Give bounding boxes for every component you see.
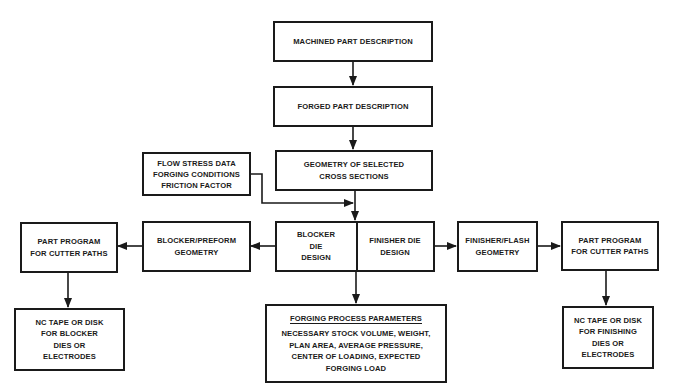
forged-part-description-box: FORGED PART DESCRIPTION — [273, 86, 433, 127]
node-label: FORGED PART DESCRIPTION — [297, 101, 408, 113]
node-label: GEOMETRY — [175, 247, 219, 259]
forging-design-flowchart: MACHINED PART DESCRIPTION FORGED PART DE… — [0, 0, 676, 392]
node-label: MACHINED PART DESCRIPTION — [293, 36, 413, 48]
node-label: DIE — [310, 241, 323, 253]
node-label: FORGING CONDITIONS — [153, 169, 240, 180]
node-label: GEOMETRY OF SELECTED — [304, 159, 404, 171]
node-label: DESIGN — [380, 247, 410, 259]
node-label: FOR BLOCKER — [41, 328, 98, 340]
node-label: FINISHER/FLASH — [465, 235, 529, 247]
finisher-die-design-section: FINISHER DIE DESIGN — [357, 223, 433, 270]
node-label: NC TAPE OR DISK — [574, 315, 642, 327]
node-label: GEOMETRY — [476, 247, 520, 259]
blocker-die-design-section: BLOCKER DIE DESIGN — [277, 223, 355, 270]
machined-part-description-box: MACHINED PART DESCRIPTION — [273, 21, 433, 62]
node-label: PART PROGRAM — [37, 236, 100, 248]
node-label: FORGING LOAD — [326, 363, 386, 375]
node-label: CENTER OF LOADING, EXPECTED — [292, 351, 421, 363]
node-label: DIES OR — [592, 338, 624, 350]
node-label: DESIGN — [301, 252, 331, 264]
node-label: FLOW STRESS DATA — [157, 158, 236, 169]
node-label: NECESSARY STOCK VOLUME, WEIGHT, — [282, 328, 431, 340]
nc-tape-blocker-box: NC TAPE OR DISK FOR BLOCKER DIES OR ELEC… — [14, 308, 125, 371]
blocker-preform-geometry-box: BLOCKER/PREFORM GEOMETRY — [142, 221, 251, 272]
node-label: BLOCKER/PREFORM — [157, 235, 236, 247]
finisher-flash-geometry-box: FINISHER/FLASH GEOMETRY — [457, 221, 538, 272]
part-program-left-box: PART PROGRAM FOR CUTTER PATHS — [20, 222, 118, 273]
node-label: PLAN AREA, AVERAGE PRESSURE, — [289, 340, 423, 352]
node-label: FRICTION FACTOR — [161, 180, 232, 191]
die-design-box: BLOCKER DIE DESIGN FINISHER DIE DESIGN — [275, 221, 435, 272]
node-label: ELECTRODES — [582, 349, 635, 361]
node-label: FOR CUTTER PATHS — [30, 248, 107, 260]
node-label: CROSS SECTIONS — [319, 171, 388, 183]
node-label: PART PROGRAM — [578, 235, 641, 247]
nc-tape-finishing-box: NC TAPE OR DISK FOR FINISHING DIES OR EL… — [562, 306, 654, 369]
forging-params-title: FORGING PROCESS PARAMETERS — [290, 313, 422, 325]
node-label: FOR CUTTER PATHS — [571, 246, 648, 258]
node-label: NC TAPE OR DISK — [35, 317, 103, 329]
part-program-right-box: PART PROGRAM FOR CUTTER PATHS — [561, 221, 659, 271]
flow-stress-data-box: FLOW STRESS DATA FORGING CONDITIONS FRIC… — [142, 152, 251, 196]
node-label: FOR FINISHING — [579, 326, 637, 338]
geometry-cross-sections-box: GEOMETRY OF SELECTED CROSS SECTIONS — [275, 150, 433, 191]
node-label: ELECTRODES — [43, 351, 96, 363]
node-label: DIES OR — [54, 340, 86, 352]
node-label: FINISHER DIE — [369, 235, 420, 247]
node-label: BLOCKER — [297, 229, 335, 241]
forging-process-parameters-box: FORGING PROCESS PARAMETERS NECESSARY STO… — [265, 304, 447, 383]
